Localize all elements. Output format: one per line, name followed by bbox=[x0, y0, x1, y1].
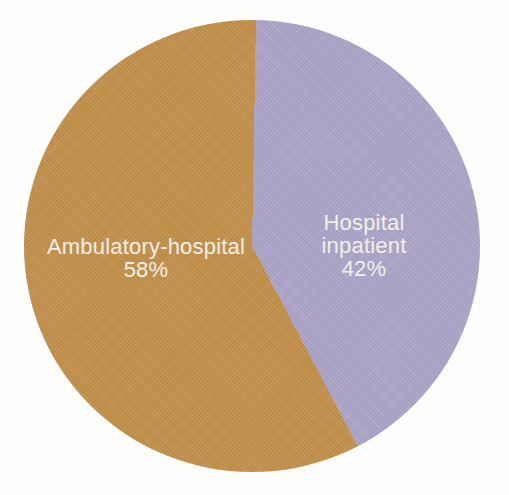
slice-percent-value: 58% bbox=[26, 258, 266, 281]
slice-percent-value: 42% bbox=[289, 257, 439, 280]
pie-chart-figure: Ambulatory-hospital 58% Hospital inpatie… bbox=[0, 0, 509, 495]
slice-label-text: Hospital inpatient bbox=[289, 211, 439, 257]
slice-label-text: Ambulatory-hospital bbox=[26, 235, 266, 258]
slice-label-ambulatory-hospital: Ambulatory-hospital 58% bbox=[26, 235, 266, 281]
slice-label-hospital-inpatient: Hospital inpatient 42% bbox=[289, 211, 439, 280]
